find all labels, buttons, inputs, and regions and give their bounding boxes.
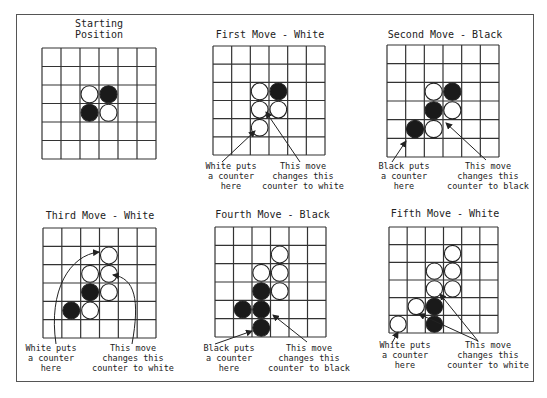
game-board [212,45,326,156]
white-counter [444,245,460,261]
placement-annotation: White puts a counter here [18,343,84,373]
game-board [388,226,499,334]
flip-annotation: This move changes this counter to black [264,343,354,373]
panel-title: Fourth Move - Black [200,209,345,220]
white-counter [251,83,268,100]
white-counter [408,298,424,314]
white-counter [271,283,288,300]
white-counter [100,265,117,282]
white-counter [425,83,442,100]
black-counter [426,298,442,314]
black-counter [253,301,270,318]
game-board [42,227,157,339]
game-board [41,47,157,160]
placement-annotation: Black puts a counter here [196,343,262,373]
panel-title: First Move - White [200,29,340,40]
white-counter [100,284,117,301]
white-counter [253,264,270,281]
black-counter [253,283,270,300]
black-counter [444,83,461,100]
white-counter [270,101,287,118]
placement-annotation: White puts a counter here [372,340,438,370]
black-counter [234,301,251,318]
white-counter [444,102,461,119]
black-counter [406,120,423,137]
placement-annotation: Black puts a counter here [371,161,437,191]
flip-annotation: This move changes this counter to white [443,340,533,370]
black-counter [82,284,99,301]
white-counter [271,246,288,263]
black-counter [253,319,270,336]
black-counter [100,86,117,103]
flip-annotation: This move changes this counter to black [443,161,533,191]
white-counter [100,247,117,264]
black-counter [81,104,98,121]
placement-annotation: White puts a counter here [198,161,264,191]
white-counter [426,263,442,279]
black-counter [426,316,442,332]
panel-title: Second Move - Black [375,29,515,40]
white-counter [444,263,460,279]
white-counter [426,281,442,297]
white-counter [271,264,288,281]
panel-title: Fifth Move - White [375,208,515,219]
white-counter [82,302,99,319]
white-counter [390,316,406,332]
flip-annotation: This move changes this counter to white [258,161,348,191]
game-board [214,226,327,338]
white-counter [251,101,268,118]
white-counter [251,119,268,136]
black-counter [63,302,80,319]
black-counter [425,102,442,119]
black-counter [270,83,287,100]
white-counter [100,104,117,121]
white-counter [425,120,442,137]
panel-title: Starting Position [42,18,156,40]
game-board [386,44,500,158]
flip-annotation: This move changes this counter to white [88,343,178,373]
white-counter [81,86,98,103]
white-counter [82,265,99,282]
white-counter [444,281,460,297]
panel-title: Third Move - White [30,210,170,221]
